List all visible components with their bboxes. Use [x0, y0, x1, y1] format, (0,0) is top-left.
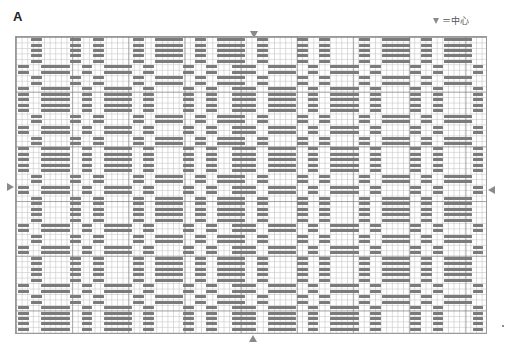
stitch-bar [133, 82, 144, 85]
stitch-bar [421, 262, 432, 265]
stitch-bar [70, 213, 81, 216]
stitch-bar [473, 284, 483, 287]
stitch-bar [206, 186, 217, 189]
stitch-bar [155, 235, 183, 238]
stitch-bar [444, 49, 472, 52]
stitch-bar [382, 54, 410, 57]
stitch-bar [319, 202, 330, 205]
stitch-bar [195, 120, 206, 123]
stitch-bar [195, 82, 206, 85]
stitch-bar [18, 158, 29, 161]
stitch-bar [268, 312, 296, 315]
stitch-bar [143, 153, 154, 156]
stitch-bar [433, 328, 443, 331]
stitch-bar [330, 251, 359, 254]
stitch-bar [82, 317, 92, 320]
stitch-bar [82, 98, 92, 101]
stitch-bar [70, 208, 81, 211]
stitch-bar [206, 224, 217, 227]
stitch-bar [308, 126, 318, 129]
stitch-bar [104, 158, 132, 161]
stitch-bar [370, 229, 381, 232]
stitch-bar [82, 104, 92, 107]
stitch-bar [473, 169, 483, 172]
stitch-bar [297, 60, 308, 63]
stitch-bar [308, 251, 318, 254]
stitch-bar [297, 301, 308, 304]
stitch-bar [232, 186, 256, 189]
stitch-bar [444, 262, 472, 265]
stitch-bar [319, 235, 330, 238]
stitch-bar [155, 268, 183, 271]
stitch-bar [297, 235, 308, 238]
stitch-bar [268, 147, 296, 150]
stitch-bar [359, 295, 370, 298]
stitch-bar [330, 284, 359, 287]
stitch-bar [41, 153, 70, 156]
stitch-bar [330, 224, 359, 227]
stitch-bar [31, 115, 42, 118]
stitch-bar [133, 175, 144, 178]
stitch-bar [70, 44, 81, 47]
stitch-bar [70, 38, 81, 41]
stitch-bar [268, 153, 296, 156]
stitch-bar [308, 98, 318, 101]
stitch-bar [82, 290, 92, 293]
stitch-bar [308, 104, 318, 107]
stitch-bar [93, 279, 104, 282]
stitch-bar [195, 49, 206, 52]
stitch-bar [18, 131, 29, 134]
stitch-bar [183, 284, 194, 287]
stitch-bar [268, 186, 296, 189]
stitch-bar [421, 235, 432, 238]
stitch-bar [421, 180, 432, 183]
stitch-bar [359, 235, 370, 238]
stitch-bar [421, 240, 432, 243]
stitch-bar [133, 257, 144, 260]
stitch-bar [268, 93, 296, 96]
stitch-bar [444, 202, 472, 205]
stitch-bar [330, 164, 359, 167]
stitch-bar [410, 131, 421, 134]
stitch-bar [297, 273, 308, 276]
stitch-bar [473, 317, 483, 320]
stitch-bar [232, 71, 256, 74]
stitch-bar [104, 153, 132, 156]
stitch-bar [297, 76, 308, 79]
stitch-bar [104, 131, 132, 134]
stitch-bar [370, 164, 381, 167]
stitch-bar [421, 295, 432, 298]
stitch-bar [31, 44, 42, 47]
stitch-bar [93, 180, 104, 183]
stitch-bar [308, 65, 318, 68]
stitch-bar [93, 240, 104, 243]
stitch-bar [421, 273, 432, 276]
stitch-bar [382, 197, 410, 200]
stitch-bar [319, 115, 330, 118]
stitch-bar [330, 312, 359, 315]
stitch-bar [31, 180, 42, 183]
stitch-bar [319, 60, 330, 63]
stitch-bar [82, 312, 92, 315]
center-marker-icon [433, 18, 439, 24]
stitch-bar [330, 87, 359, 90]
stitch-bar [319, 137, 330, 140]
stitch-bar [93, 295, 104, 298]
stitch-bar [410, 71, 421, 74]
stitch-bar [421, 213, 432, 216]
stitch-bar [444, 142, 472, 145]
stitch-bar [268, 246, 296, 249]
stitch-bar [410, 87, 421, 90]
stitch-bar [217, 180, 245, 183]
stitch-bar [319, 49, 330, 52]
stitch-bar [18, 306, 29, 309]
stitch-bar [268, 109, 296, 112]
stitch-bar [183, 65, 194, 68]
stitch-bar [41, 93, 70, 96]
stitch-bar [257, 38, 268, 41]
stitch-bar [330, 153, 359, 156]
stitch-bar [31, 76, 42, 79]
stitch-bar [297, 268, 308, 271]
stitch-bar [268, 317, 296, 320]
stitch-bar [319, 268, 330, 271]
